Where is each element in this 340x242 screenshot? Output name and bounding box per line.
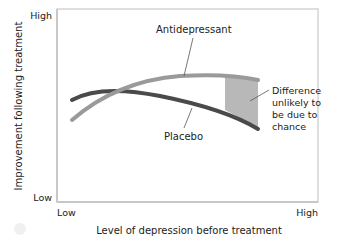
difference-label-1: Difference xyxy=(272,85,321,96)
x-tick-low: Low xyxy=(57,207,76,218)
y-tick-high: High xyxy=(30,10,52,21)
difference-label-4: chance xyxy=(272,121,306,132)
x-axis-label: Level of depression before treatment xyxy=(96,225,282,236)
difference-label-2: unlikely to xyxy=(272,97,321,108)
chart: High Low Low High Level of depression be… xyxy=(0,0,340,242)
difference-label-3: be due to xyxy=(272,109,318,120)
antidepressant-leader xyxy=(184,38,193,76)
placebo-label: Placebo xyxy=(164,131,203,142)
y-tick-low: Low xyxy=(33,192,52,203)
decorative-dot xyxy=(14,223,26,235)
placebo-leader xyxy=(184,108,192,128)
x-tick-high: High xyxy=(296,207,318,218)
antidepressant-label: Antidepressant xyxy=(156,24,232,35)
y-axis-label: Improvement following treatment xyxy=(13,22,24,191)
